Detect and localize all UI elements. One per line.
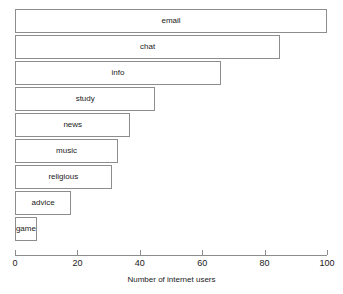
x-axis-tick [140,250,141,255]
x-axis-tick-label: 40 [125,258,155,268]
x-axis-tick-label: 80 [250,258,280,268]
bar [15,139,118,163]
bar [15,35,280,59]
x-axis-label: Number of internet users [0,275,343,284]
bar-chart: emailchatinfostudynewsmusicreligiousadvi… [0,0,343,294]
bar-row: chat [15,35,280,59]
bar-row: study [15,87,155,111]
bar-row: music [15,139,118,163]
x-axis-tick-label: 0 [0,258,30,268]
x-axis-tick [265,250,266,255]
bar [15,61,221,85]
bar-row: email [15,9,327,33]
x-axis-tick [15,250,16,255]
bar [15,113,130,137]
bar [15,9,327,33]
x-axis-tick [202,250,203,255]
bar-row: advice [15,191,71,215]
bar [15,191,71,215]
x-axis-tick [327,250,328,255]
bar-row: game [15,217,37,241]
bar [15,217,37,241]
bar [15,165,112,189]
bar [15,87,155,111]
x-axis-line [15,255,327,256]
x-axis-tick-label: 20 [62,258,92,268]
bar-row: info [15,61,221,85]
bar-row: religious [15,165,112,189]
bar-row: news [15,113,130,137]
x-axis-tick [77,250,78,255]
x-axis-tick-label: 100 [312,258,342,268]
x-axis-tick-label: 60 [187,258,217,268]
plot-area: emailchatinfostudynewsmusicreligiousadvi… [0,0,343,250]
